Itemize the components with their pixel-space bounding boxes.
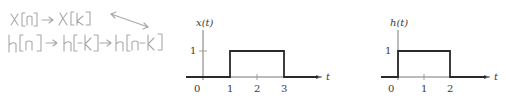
x-tick-label-0: 0	[388, 83, 394, 94]
figure-canvas: x(t) 1 t 0 1 2 3 h(t) 1 t 0 1 2	[0, 0, 506, 96]
graph-h-of-t: h(t) 1 t 0 1 2	[381, 17, 499, 94]
note-line-1	[11, 12, 90, 26]
signal-x-pulse	[186, 51, 318, 77]
x-axis-label: t	[494, 71, 499, 82]
y-tick-label-1: 1	[190, 45, 196, 56]
note-line-2	[9, 34, 162, 52]
x-tick-label-3: 3	[281, 83, 287, 94]
y-axis-label: h(t)	[390, 17, 408, 28]
x-tick-label-1: 1	[421, 83, 427, 94]
x-tick-label-2: 2	[447, 83, 453, 94]
graph-x-of-t: x(t) 1 t 0 1 2 3	[186, 17, 331, 94]
y-axis-label: x(t)	[196, 17, 214, 28]
signal-h-pulse	[381, 51, 486, 77]
handwritten-notes	[9, 12, 162, 52]
x-axis-label: t	[326, 71, 331, 82]
y-tick-label-1: 1	[385, 45, 391, 56]
x-tick-label-0: 0	[194, 83, 200, 94]
double-arrow-icon	[111, 12, 148, 29]
x-tick-label-2: 2	[254, 83, 260, 94]
x-tick-label-1: 1	[227, 83, 233, 94]
